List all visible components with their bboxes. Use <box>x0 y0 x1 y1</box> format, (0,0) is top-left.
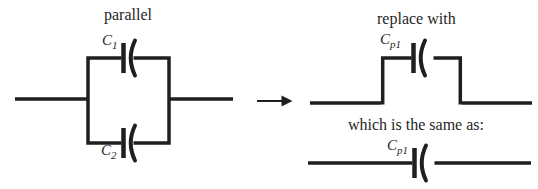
capacitor-label-cp1-bottom-subscript: p1 <box>397 144 408 156</box>
right-arrow-icon <box>257 96 293 107</box>
capacitor-symbol-cp1-top <box>414 41 426 76</box>
replace-with-title: replace with <box>377 10 456 28</box>
capacitor-label-cp1-top-symbol: C <box>380 31 390 47</box>
replacement-circuit <box>310 41 532 105</box>
capacitor-label-c2: C2 <box>101 141 117 161</box>
capacitor-symbol-cp1-bottom <box>415 146 427 181</box>
circuit-diagram: parallel C1 C2 replace with Cp1 which is… <box>0 0 538 189</box>
capacitor-label-cp1-bottom: Cp1 <box>387 136 408 156</box>
equivalent-circuit <box>308 146 531 181</box>
same-as-title: which is the same as: <box>348 116 484 134</box>
circuit-wires <box>0 0 538 189</box>
capacitor-label-cp1-top: Cp1 <box>380 30 401 50</box>
capacitor-label-cp1-top-subscript: p1 <box>390 38 401 50</box>
parallel-title: parallel <box>104 6 152 24</box>
capacitor-label-cp1-bottom-symbol: C <box>387 137 397 153</box>
capacitor-label-c2-subscript: 2 <box>111 149 117 161</box>
capacitor-symbol-c2 <box>124 126 136 161</box>
capacitor-label-c2-symbol: C <box>101 142 111 158</box>
capacitor-label-c1: C1 <box>102 31 118 51</box>
capacitor-label-c1-symbol: C <box>102 32 112 48</box>
capacitor-symbol-c1 <box>124 41 136 76</box>
capacitor-label-c1-subscript: 1 <box>112 39 118 51</box>
parallel-circuit <box>15 41 233 161</box>
